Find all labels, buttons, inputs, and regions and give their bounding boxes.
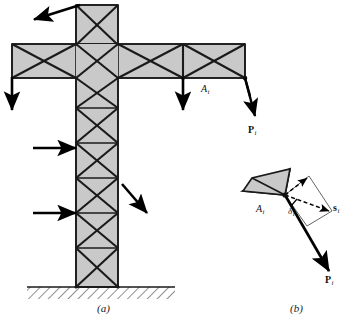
truss-body-fills <box>12 5 245 287</box>
arrow-top-left-diagonal <box>34 5 80 20</box>
caption-a: (a) <box>97 302 110 314</box>
label-Pi-b: Pi <box>325 274 334 287</box>
engineering-figure <box>0 0 362 322</box>
label-Pi-a: Pi <box>248 124 257 137</box>
caption-b: (b) <box>290 302 303 314</box>
load-arrows <box>12 5 255 213</box>
label-delta-i: δi <box>288 206 295 218</box>
joint-displacement-detail <box>243 169 332 271</box>
arrow-right-diagonal <box>122 184 147 213</box>
label-Ai-a: Ai <box>201 83 210 96</box>
label-Ai-b: Ai <box>256 203 265 216</box>
displacement-parallelogram <box>285 176 332 226</box>
arrow-Pi-load-leader <box>245 78 250 96</box>
projection-marker <box>291 199 297 206</box>
ground-hatching <box>27 287 175 299</box>
label-si: si <box>333 202 339 215</box>
tower-truss-panel <box>12 5 255 299</box>
